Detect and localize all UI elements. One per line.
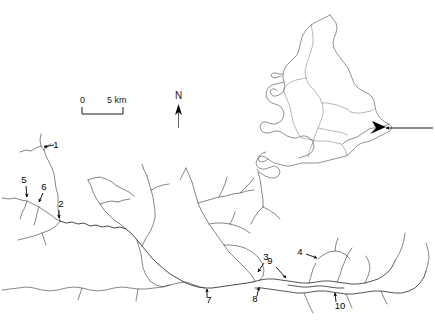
inset-coast-wales-detail xyxy=(271,73,283,78)
river-branch-far-ne-b xyxy=(251,207,263,224)
river-branch-sw-spur xyxy=(137,240,170,287)
river-branch-mid-1 xyxy=(142,176,155,246)
river-branch-ne-3 xyxy=(209,223,250,233)
estuary-inlet-n-2 xyxy=(337,248,352,282)
estuary-inlet-n-1 xyxy=(309,263,316,283)
estuary-north-bank xyxy=(253,261,395,284)
river-branch-nw-1b xyxy=(40,134,41,146)
estuary-mid-bar xyxy=(288,285,344,288)
scale-bar: 0 5 km xyxy=(80,95,127,114)
river-branch-nc-1d xyxy=(100,201,118,204)
inset-coast-wales-southwest xyxy=(260,60,314,158)
scale-end-label: 5 km xyxy=(107,95,127,105)
site-label-10: 10 xyxy=(335,300,346,311)
river-branch-s-7b xyxy=(78,288,82,300)
leader-4 xyxy=(306,254,317,258)
river-branch-far-ne-c xyxy=(263,207,280,219)
site-label-9: 9 xyxy=(267,255,272,266)
inset-boundary-mid-west xyxy=(284,78,306,92)
site-label-6: 6 xyxy=(41,181,46,192)
estuary-inlet-n-3 xyxy=(365,256,370,283)
north-arrow: N xyxy=(175,90,182,128)
estuary-inlet-s-2 xyxy=(346,294,352,308)
site-label-5: 5 xyxy=(21,174,26,185)
inset-boundary-wales-border xyxy=(284,92,302,138)
river-branch-nc-1b xyxy=(88,177,117,186)
estuary-outer-arm-s xyxy=(426,243,429,271)
river-network xyxy=(2,134,280,301)
leader-9 xyxy=(276,267,286,278)
river-branch-mid-1c xyxy=(151,184,169,190)
river-branch-ne-2b xyxy=(219,177,227,197)
north-arrow-label: N xyxy=(175,90,182,101)
inset-boundary-midlands xyxy=(322,103,351,112)
scale-start-label: 0 xyxy=(80,95,85,105)
estuary-outer-arm xyxy=(395,233,405,261)
inset-boundary-southeast xyxy=(341,144,347,156)
river-branch-ne-1 xyxy=(186,168,255,281)
river-branch-ne-1b xyxy=(180,168,186,180)
map-canvas: 0 5 km N 12345678910 xyxy=(0,0,435,321)
inset-boundary-north xyxy=(305,24,314,90)
site-label-8: 8 xyxy=(252,293,257,304)
inset-coast-north xyxy=(292,15,330,60)
river-branch-sw-b xyxy=(42,233,46,245)
river-branch-sw xyxy=(18,221,60,240)
map-figure: 0 5 km N 12345678910 xyxy=(0,0,435,321)
river-branch-s-7c xyxy=(136,289,138,301)
inset-boundary-east xyxy=(351,109,374,113)
river-branch-ne-3b xyxy=(230,212,235,224)
site-label-arrows xyxy=(26,145,336,302)
estuary-inlet-s-3 xyxy=(381,291,387,304)
leader-6 xyxy=(39,193,43,202)
inset-boundary-pennine xyxy=(313,90,323,142)
site-label-2: 2 xyxy=(58,198,63,209)
river-branch-ne-4 xyxy=(224,245,264,281)
river-branch-w-5b xyxy=(20,201,27,219)
river-branch-nc-1c xyxy=(117,186,134,196)
scale-bar-rule xyxy=(82,107,123,114)
estuary-creek-ne-4 xyxy=(318,251,350,259)
site-label-texts: 12345678910 xyxy=(21,139,345,311)
inset-boundary-thames-valley xyxy=(318,128,347,135)
leader-5 xyxy=(26,186,27,197)
river-main-west-reach xyxy=(60,221,126,229)
river-branch-w-6 xyxy=(34,207,39,225)
inset-target-wedge xyxy=(370,121,386,134)
site-label-1: 1 xyxy=(53,139,58,150)
river-branch-s-7 xyxy=(2,282,205,291)
estuary-inlet-s-1 xyxy=(304,293,313,313)
site-label-7: 7 xyxy=(206,294,211,305)
river-branch-far-ne xyxy=(258,172,263,207)
inset-coastline xyxy=(256,15,392,178)
inset-locator-map xyxy=(256,15,433,178)
river-branch-nc-1e xyxy=(118,199,130,202)
river-main-central-spine xyxy=(126,229,253,288)
river-branch-w-5 xyxy=(2,198,60,221)
river-branch-mid-1b xyxy=(142,164,147,176)
site-label-4: 4 xyxy=(297,246,302,257)
river-branch-ne-2 xyxy=(198,190,254,203)
inset-boundary-south xyxy=(302,138,341,144)
estuary-creek-ne-4b xyxy=(335,238,338,251)
